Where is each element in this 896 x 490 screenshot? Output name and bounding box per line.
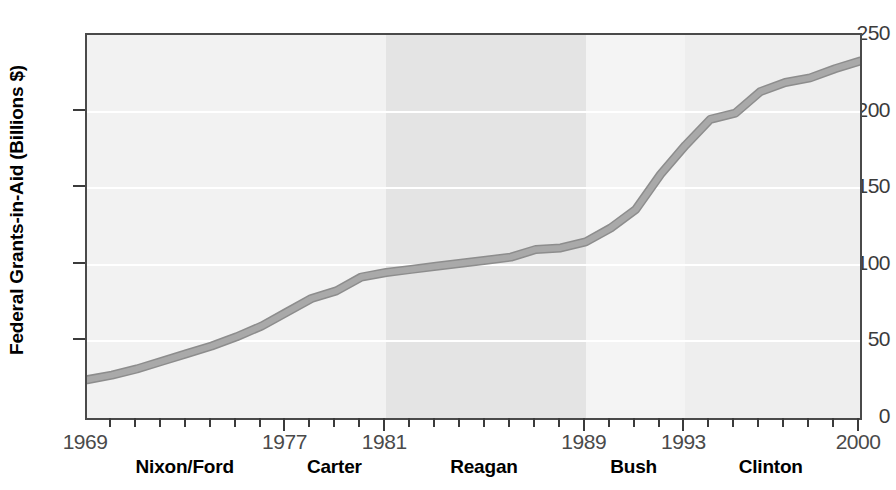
x-tick-minor: [757, 418, 759, 427]
x-tick-minor: [807, 418, 809, 427]
x-tick-minor: [433, 418, 435, 427]
x-tick-minor: [159, 418, 161, 427]
x-tick-minor: [782, 418, 784, 427]
x-tick-minor: [184, 418, 186, 427]
x-tick-minor: [408, 418, 410, 427]
y-axis-title: Federal Grants-in-Aid (Billions $): [0, 0, 34, 420]
x-tick-minor: [109, 418, 111, 427]
x-tick-minor: [483, 418, 485, 427]
data-series-line: [87, 35, 860, 418]
x-tick-label: 1993: [661, 430, 706, 454]
era-label-reagan: Reagan: [450, 456, 517, 478]
x-tick-label: 1977: [262, 430, 307, 454]
y-tick: [73, 185, 85, 187]
x-tick-minor: [308, 418, 310, 427]
x-tick-label: 1969: [63, 430, 108, 454]
x-tick-minor: [333, 418, 335, 427]
chart-root: Federal Grants-in-Aid (Billions $) 05010…: [0, 0, 896, 490]
y-tick: [73, 109, 85, 111]
x-tick-label: 1989: [561, 430, 606, 454]
plot-area: [85, 33, 862, 420]
x-tick-minor: [732, 418, 734, 427]
era-label-clinton: Clinton: [739, 456, 803, 478]
x-tick-minor: [558, 418, 560, 427]
era-label-bush: Bush: [610, 456, 657, 478]
x-tick-minor: [209, 418, 211, 427]
x-tick-minor: [259, 418, 261, 427]
x-tick-minor: [832, 418, 834, 427]
era-label-carter: Carter: [307, 456, 362, 478]
x-tick-minor: [633, 418, 635, 427]
era-label-nixon-ford: Nixon/Ford: [136, 456, 234, 478]
x-tick-minor: [608, 418, 610, 427]
x-tick-minor: [234, 418, 236, 427]
series-line-0: [87, 61, 860, 380]
x-tick-minor: [358, 418, 360, 427]
x-tick-minor: [134, 418, 136, 427]
x-tick-minor: [658, 418, 660, 427]
x-tick-minor: [707, 418, 709, 427]
y-tick: [73, 262, 85, 264]
x-tick-minor: [533, 418, 535, 427]
x-tick-label: 1981: [362, 430, 407, 454]
y-tick: [73, 338, 85, 340]
x-tick-label: 2000: [836, 430, 881, 454]
x-tick-minor: [458, 418, 460, 427]
x-tick-minor: [508, 418, 510, 427]
